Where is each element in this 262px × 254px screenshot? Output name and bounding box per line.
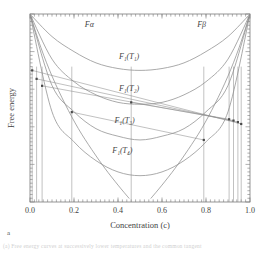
annotation-F₁(T₄): F₁(T₄)	[111, 146, 133, 155]
annotation-F₁(T₁): F₁(T₁)	[118, 52, 140, 61]
tangent-point	[237, 121, 239, 123]
free-energy-concentration-chart: 0.00.20.40.60.81.0Concentration (c)Free …	[0, 0, 262, 254]
free-energy-figure: 0.00.20.40.60.81.0Concentration (c)Free …	[0, 0, 262, 254]
x-tick-label: 0.2	[69, 206, 79, 215]
annotation-Fα: Fα	[84, 20, 95, 29]
curve-F1T2	[30, 14, 250, 104]
curve-F1T3	[30, 14, 250, 140]
tangent-point	[228, 118, 230, 120]
x-axis-title: Concentration (c)	[110, 220, 170, 230]
y-axis-title: Free energy	[6, 87, 16, 128]
annotation-F₁(T₃): F₁(T₃)	[113, 116, 135, 125]
tangent-point	[232, 119, 234, 121]
curve-F1T1	[30, 14, 250, 70]
axis-frame	[30, 14, 250, 202]
panel-label: a	[7, 229, 10, 237]
tangent-point	[31, 69, 33, 71]
caption-fragment: (a) Free energy curves at successively l…	[0, 243, 262, 254]
x-tick-label: 0.8	[201, 206, 211, 215]
tangent-point	[71, 111, 73, 113]
x-tick-label: 1.0	[245, 206, 255, 215]
tangent-point	[41, 85, 43, 87]
x-tick-label: 0.0	[25, 206, 35, 215]
tangent-point	[36, 78, 38, 80]
curve-F1T4	[30, 14, 250, 176]
annotation-F₁(T₂): F₁(T₂)	[118, 84, 140, 93]
x-tick-label: 0.6	[157, 206, 167, 215]
tangent-point	[203, 139, 205, 141]
tangent-point	[240, 123, 242, 125]
x-tick-label: 0.4	[113, 206, 123, 215]
tangent-point	[130, 101, 132, 103]
annotation-Fβ: Fβ	[196, 20, 206, 29]
